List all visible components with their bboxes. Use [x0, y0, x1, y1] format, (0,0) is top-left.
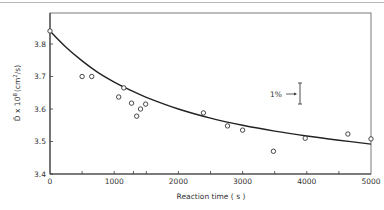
- fit-line: [50, 31, 371, 144]
- data-point: [138, 107, 142, 111]
- x-axis-title: Reaction time ( s ): [177, 192, 246, 201]
- y-label-unit-end: /s): [13, 65, 22, 74]
- data-point: [303, 136, 307, 140]
- y-axis-title: D̄ x 108(cm2/s): [12, 65, 22, 121]
- data-point: [369, 137, 373, 141]
- y-label-unit: (cm: [13, 78, 22, 92]
- x-tick-label: 1000: [105, 177, 124, 186]
- annotation-label: 1%: [270, 90, 282, 99]
- data-point: [122, 86, 126, 90]
- data-points: [48, 29, 373, 154]
- y-tick-label: 3.4: [34, 170, 46, 179]
- data-point: [129, 101, 133, 105]
- y-tick-label: 3.8: [34, 40, 46, 49]
- data-point: [48, 29, 52, 33]
- data-point: [116, 95, 120, 99]
- y-tick-label: 3.6: [34, 105, 46, 114]
- x-tick-label: 2000: [169, 177, 188, 186]
- annotation-arrow-head: [294, 93, 297, 96]
- y-label-exp: 8: [12, 93, 18, 97]
- chart-canvas: 0100020003000400050003.43.53.63.73.8 1% …: [0, 0, 384, 210]
- y-axis-title-text: D̄ x 108(cm2/s): [12, 65, 22, 121]
- data-point: [143, 102, 147, 106]
- data-point: [134, 114, 138, 118]
- data-point: [225, 124, 229, 128]
- y-label-main: D̄ x 10: [13, 96, 22, 121]
- data-point: [240, 128, 244, 132]
- y-tick-label: 3.5: [34, 137, 46, 146]
- x-tick-label: 5000: [361, 177, 380, 186]
- x-tick-label: 4000: [297, 177, 316, 186]
- x-tick-label: 3000: [233, 177, 252, 186]
- error-bar-annotation: 1%: [270, 83, 302, 104]
- x-tick-label: 0: [48, 177, 53, 186]
- axis-ticks: 0100020003000400050003.43.53.63.73.8: [34, 40, 381, 187]
- plot-frame: [50, 13, 371, 174]
- data-point: [271, 149, 275, 153]
- data-point: [201, 111, 205, 115]
- data-point: [346, 132, 350, 136]
- plot-border: [50, 13, 371, 174]
- fit-curve: [50, 31, 371, 144]
- data-point: [90, 74, 94, 78]
- data-point: [80, 74, 84, 78]
- y-tick-label: 3.7: [34, 72, 46, 81]
